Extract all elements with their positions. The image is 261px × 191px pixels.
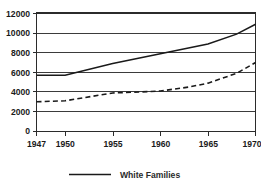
x-axis-label-1970: 1970 bbox=[242, 139, 261, 149]
y-axis-label-0: 0 bbox=[25, 126, 30, 136]
gridlines-group bbox=[36, 14, 256, 112]
series-group bbox=[37, 24, 256, 101]
x-axis-label-1965: 1965 bbox=[199, 139, 218, 149]
chart-canvas: 12000 10000 8000 6000 4000 2000 0 1947 1… bbox=[0, 0, 261, 191]
series-line-white-families bbox=[37, 24, 256, 75]
y-axis-label-10000: 10000 bbox=[6, 28, 30, 38]
x-axis-label-1955: 1955 bbox=[103, 139, 122, 149]
y-axis-label-12000: 12000 bbox=[6, 9, 30, 19]
y-axis-labels-group: 12000 10000 8000 6000 4000 2000 0 bbox=[6, 9, 30, 137]
y-axis-label-2000: 2000 bbox=[11, 107, 30, 117]
y-axis-label-8000: 8000 bbox=[11, 48, 30, 58]
x-axis-label-1960: 1960 bbox=[151, 139, 170, 149]
legend-label-white-families: White Families bbox=[120, 170, 180, 180]
y-axis-label-6000: 6000 bbox=[11, 68, 30, 78]
x-tick-marks-group bbox=[37, 131, 256, 136]
x-axis-label-1950: 1950 bbox=[56, 139, 75, 149]
line-chart: 12000 10000 8000 6000 4000 2000 0 1947 1… bbox=[0, 0, 261, 191]
legend-group: White Families bbox=[69, 170, 180, 180]
series-line-dashed bbox=[37, 63, 256, 102]
x-axis-labels-group: 1947 1950 1955 1960 1965 1970 bbox=[27, 139, 261, 149]
y-axis-label-4000: 4000 bbox=[11, 87, 30, 97]
x-axis-label-1947: 1947 bbox=[27, 139, 46, 149]
